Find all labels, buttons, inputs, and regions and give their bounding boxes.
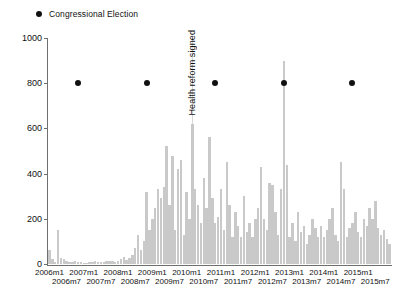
plot-area: 02004006008001000 xyxy=(48,38,391,264)
y-tick-label-200: 200 xyxy=(2,214,42,224)
x-tick-label-2013m1: 2013m1 xyxy=(275,268,304,277)
y-tick-label-1000: 1000 xyxy=(2,33,42,43)
bar-series xyxy=(48,38,391,264)
x-tick-label-2012m1: 2012m1 xyxy=(241,268,270,277)
chart-legend: Congressional Election xyxy=(36,6,138,22)
x-tick-label-2008m1: 2008m1 xyxy=(104,268,133,277)
x-tick-label-2006m7: 2006m7 xyxy=(52,277,81,286)
election-marker-dot xyxy=(281,80,287,86)
chart-root: Congressional Election 02004006008001000… xyxy=(0,0,401,296)
election-marker-dot xyxy=(75,80,81,86)
legend-label-congressional-election: Congressional Election xyxy=(49,9,138,19)
x-tick-label-2012m7: 2012m7 xyxy=(258,277,287,286)
x-tick-label-2010m1: 2010m1 xyxy=(172,268,201,277)
y-tick-label-800: 800 xyxy=(2,78,42,88)
x-tick-label-2011m7: 2011m7 xyxy=(224,277,252,286)
bar xyxy=(388,244,390,264)
x-axis-line xyxy=(47,265,392,266)
election-dot-icon xyxy=(36,11,42,17)
x-axis-labels: 2006m12007m12008m12009m12010m12011m12012… xyxy=(0,268,401,296)
x-tick-label-2006m1: 2006m1 xyxy=(35,268,64,277)
x-tick-label-2015m7: 2015m7 xyxy=(361,277,390,286)
x-tick-label-2009m7: 2009m7 xyxy=(155,277,184,286)
election-marker-dot xyxy=(144,80,150,86)
y-tick-label-600: 600 xyxy=(2,123,42,133)
x-tick-label-2013m7: 2013m7 xyxy=(292,277,321,286)
election-marker-dot xyxy=(212,80,218,86)
health-reform-annotation-label: Health reform signed xyxy=(187,30,197,116)
x-tick-label-2007m1: 2007m1 xyxy=(69,268,98,277)
x-tick-label-2011m1: 2011m1 xyxy=(207,268,235,277)
y-tick-mark-0 xyxy=(44,264,48,265)
x-tick-label-2010m7: 2010m7 xyxy=(189,277,218,286)
x-tick-label-2007m7: 2007m7 xyxy=(86,277,115,286)
x-tick-label-2009m1: 2009m1 xyxy=(138,268,167,277)
x-tick-label-2014m1: 2014m1 xyxy=(309,268,338,277)
y-tick-label-400: 400 xyxy=(2,169,42,179)
x-tick-label-2015m1: 2015m1 xyxy=(344,268,373,277)
x-tick-label-2014m7: 2014m7 xyxy=(327,277,356,286)
election-marker-dot xyxy=(349,80,355,86)
x-tick-label-2008m7: 2008m7 xyxy=(121,277,150,286)
